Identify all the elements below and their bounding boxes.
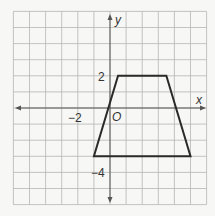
tick-label-y-2: 2 bbox=[98, 70, 105, 84]
origin-label: O bbox=[112, 110, 121, 124]
coordinate-plane: x y O −2 2 −4 bbox=[0, 0, 215, 216]
y-axis-up-arrow-icon bbox=[108, 14, 113, 20]
y-axis-down-arrow-icon bbox=[108, 197, 113, 203]
y-axis-label: y bbox=[114, 13, 122, 27]
tick-label-x-neg2: −2 bbox=[68, 111, 82, 125]
x-axis-left-arrow-icon bbox=[15, 106, 21, 111]
tick-label-y-neg4: −4 bbox=[91, 166, 105, 180]
x-axis-label: x bbox=[195, 93, 203, 107]
